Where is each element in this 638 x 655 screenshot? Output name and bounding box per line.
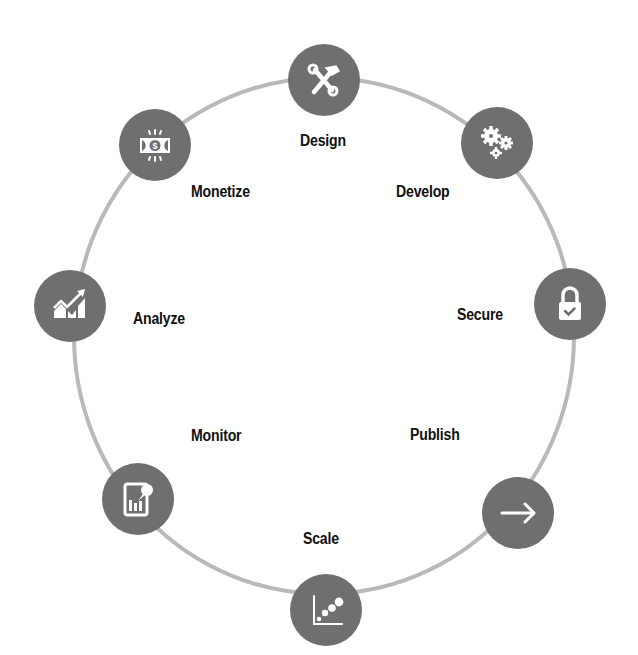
- scatter-plot-icon: [304, 588, 348, 632]
- step-design-label: Design: [300, 132, 346, 150]
- step-scale-node: [290, 574, 362, 646]
- step-monetize-label: Monetize: [191, 183, 250, 201]
- money-bill-icon: $: [133, 123, 177, 167]
- step-secure-node: [534, 268, 606, 340]
- svg-text:$: $: [152, 141, 157, 151]
- step-publish-label: Publish: [410, 426, 460, 444]
- tablet-chart-icon: [116, 477, 160, 521]
- step-monetize-node: $: [119, 109, 191, 181]
- step-design-node: [288, 44, 360, 116]
- step-develop-label: Develop: [396, 183, 450, 201]
- step-monitor-label: Monitor: [191, 427, 241, 445]
- hammer-wrench-icon: [302, 58, 346, 102]
- trend-chart-icon: [48, 284, 92, 328]
- arrow-right-icon: [496, 491, 540, 535]
- gears-icon: [475, 121, 519, 165]
- step-scale-label: Scale: [303, 530, 339, 548]
- step-analyze-label: Analyze: [133, 310, 185, 328]
- step-monitor-node: [102, 463, 174, 535]
- step-develop-node: [461, 107, 533, 179]
- padlock-check-icon: [548, 282, 592, 326]
- step-secure-label: Secure: [457, 306, 503, 324]
- step-analyze-node: [34, 270, 106, 342]
- step-publish-node: [482, 477, 554, 549]
